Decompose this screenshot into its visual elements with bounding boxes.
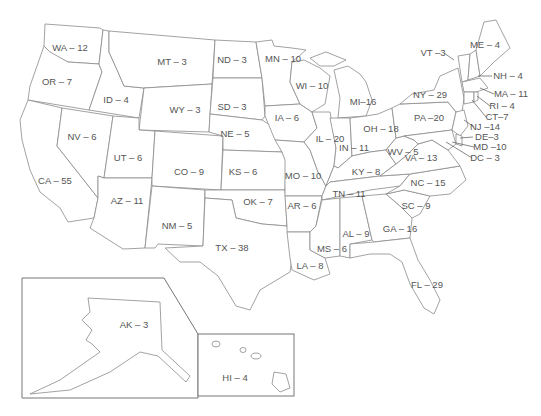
hawaii-inset xyxy=(198,334,294,396)
label-vt: VT –3 xyxy=(420,48,445,58)
label-ut: UT – 6 xyxy=(114,153,142,163)
label-ar: AR – 6 xyxy=(287,201,316,211)
label-ok: OK – 7 xyxy=(243,197,273,207)
state-fl xyxy=(350,238,440,314)
label-ky: KY – 8 xyxy=(352,167,380,177)
label-mi: MI–16 xyxy=(350,97,376,107)
state-nm xyxy=(145,186,205,248)
label-md: MD –10 xyxy=(473,142,506,152)
label-pa: PA –20 xyxy=(414,113,444,123)
label-nc: NC – 15 xyxy=(411,178,446,188)
label-ks: KS – 6 xyxy=(229,167,258,177)
label-sc: SC – 9 xyxy=(401,201,430,211)
alaska-inset xyxy=(22,278,198,398)
label-al: AL – 9 xyxy=(342,229,369,239)
label-in: IN – 11 xyxy=(339,143,369,153)
label-ma: MA – 11 xyxy=(494,89,528,99)
label-wa: WA – 12 xyxy=(52,43,88,53)
label-me: ME – 4 xyxy=(470,40,500,50)
label-ga: GA – 16 xyxy=(383,224,417,234)
label-ca: CA – 55 xyxy=(38,176,72,186)
label-sd: SD – 3 xyxy=(217,102,246,112)
label-az: AZ – 11 xyxy=(111,196,144,206)
us-electoral-map: WA – 12 OR – 7 ID – 4 MT – 3 WY – 3 ND –… xyxy=(0,0,541,416)
label-nm: NM – 5 xyxy=(162,221,193,231)
label-tx: TX – 38 xyxy=(215,243,248,253)
state-co xyxy=(152,131,223,190)
state-ct xyxy=(464,92,474,104)
label-mn: MN – 10 xyxy=(265,54,301,64)
label-ms: MS – 6 xyxy=(317,244,347,254)
label-wi: WI – 10 xyxy=(296,81,329,91)
label-nd: ND – 3 xyxy=(217,55,247,65)
label-mt: MT – 3 xyxy=(157,57,186,67)
label-ri: RI – 4 xyxy=(489,101,514,111)
label-dc: DC – 3 xyxy=(470,153,500,163)
state-sd xyxy=(210,78,265,120)
label-oh: OH – 18 xyxy=(363,124,398,134)
label-nv: NV – 6 xyxy=(67,132,96,142)
label-id: ID – 4 xyxy=(103,95,128,105)
label-co: CO – 9 xyxy=(174,167,204,177)
label-ne: NE – 5 xyxy=(220,129,249,139)
label-wy: WY – 3 xyxy=(170,105,201,115)
label-va: VA – 13 xyxy=(405,153,438,163)
label-tn: TN – 11 xyxy=(332,189,365,199)
label-or: OR – 7 xyxy=(42,77,72,87)
state-az xyxy=(90,176,152,249)
label-ia: IA – 6 xyxy=(275,113,299,123)
label-fl: FL – 29 xyxy=(411,280,443,290)
label-hi: HI – 4 xyxy=(222,373,247,383)
label-nh: NH – 4 xyxy=(493,71,523,81)
label-mo: MO – 10 xyxy=(285,171,321,181)
label-ny: NY – 29 xyxy=(413,90,447,100)
label-la: LA – 8 xyxy=(297,261,324,271)
state-ri xyxy=(474,92,478,102)
label-ak: AK – 3 xyxy=(120,320,149,330)
